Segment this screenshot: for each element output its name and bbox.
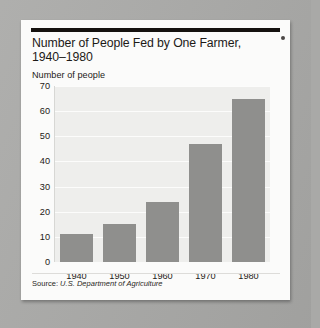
- y-axis-tick-label: 0: [28, 257, 50, 267]
- bar: [232, 99, 266, 262]
- chart-title-line-1: Number of People Fed by One Farmer,: [32, 36, 241, 50]
- y-axis-tick-label: 50: [28, 131, 50, 141]
- gridline: [55, 86, 270, 87]
- chart-title: Number of People Fed by One Farmer, 1940…: [32, 36, 257, 65]
- source-note-lead: Source:: [32, 279, 58, 288]
- y-axis-tick-label: 30: [28, 182, 50, 192]
- title-rule: [31, 28, 280, 32]
- y-axis-tick-label: 40: [28, 156, 50, 166]
- y-axis-tick-label: 20: [28, 207, 50, 217]
- y-axis-title: Number of people: [32, 70, 105, 80]
- plot-area: 010203040506070 19401950196019701980: [55, 86, 270, 262]
- y-axis-tick-label: 60: [28, 106, 50, 116]
- bar: [146, 202, 180, 262]
- chart-card: Number of People Fed by One Farmer, 1940…: [21, 20, 290, 300]
- source-note-text: U.S. Department of Agriculture: [60, 279, 162, 288]
- y-axis-tick-label: 70: [28, 81, 50, 91]
- source-note: Source: U.S. Department of Agriculture: [32, 279, 163, 288]
- bar: [189, 144, 223, 262]
- bar: [103, 224, 137, 262]
- y-axis-line: [54, 86, 55, 262]
- bar: [60, 234, 94, 262]
- bullet-dot-icon: [281, 36, 285, 40]
- source-rule: [32, 273, 280, 274]
- y-axis-tick-label: 10: [28, 232, 50, 242]
- chart-title-line-2: 1940–1980: [32, 50, 93, 64]
